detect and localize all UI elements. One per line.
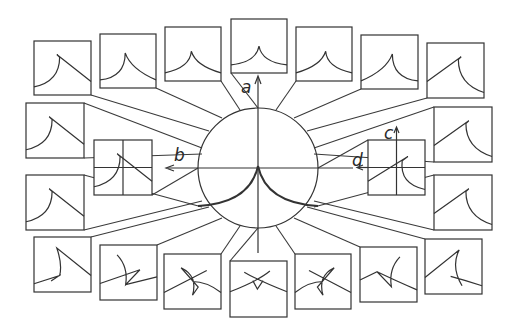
axis-label-d: d bbox=[352, 152, 363, 169]
box-top-5 bbox=[296, 27, 352, 81]
connector-top-3 bbox=[221, 81, 240, 110]
box-inner-right bbox=[368, 140, 425, 195]
box-frame bbox=[100, 245, 157, 300]
box-frame bbox=[425, 239, 482, 294]
connector-top-2 bbox=[156, 88, 222, 118]
connector-bottom-6 bbox=[294, 218, 360, 247]
box-top-1 bbox=[34, 41, 91, 95]
box-frame bbox=[434, 107, 492, 162]
axis-label-a: a bbox=[241, 79, 251, 96]
connector-top-6 bbox=[294, 89, 361, 118]
box-frame bbox=[34, 237, 91, 292]
box-bottom-2 bbox=[100, 245, 157, 300]
box-left-lower bbox=[26, 175, 84, 230]
axis-label-b: b bbox=[174, 147, 185, 164]
box-bottom-6 bbox=[360, 247, 417, 302]
connector-top-5 bbox=[276, 81, 296, 110]
box-top-7 bbox=[427, 43, 484, 98]
connector-bottom-5 bbox=[276, 226, 295, 254]
connector-bottom-3 bbox=[221, 226, 240, 254]
box-frame bbox=[434, 175, 492, 230]
box-bottom-7 bbox=[425, 239, 482, 294]
box-frame bbox=[361, 35, 418, 89]
box-inner-left bbox=[94, 140, 152, 195]
connector-bottom-4 bbox=[230, 228, 258, 261]
connector2-left-lower bbox=[84, 201, 202, 230]
connector-bottom-2 bbox=[157, 218, 222, 245]
box-frame bbox=[26, 175, 84, 230]
box-left-upper bbox=[26, 103, 84, 158]
connector-top-7 bbox=[307, 98, 427, 131]
box-top-3 bbox=[165, 27, 221, 81]
box-top-6 bbox=[361, 35, 418, 89]
box-bottom-5 bbox=[295, 254, 351, 309]
box-right-upper bbox=[434, 107, 492, 162]
box-right-lower bbox=[434, 175, 492, 230]
box-bottom-4 bbox=[230, 261, 287, 317]
connector-bottom-1 bbox=[91, 207, 209, 237]
box-frame bbox=[34, 41, 91, 95]
box-frame bbox=[100, 34, 156, 88]
box-frame bbox=[360, 247, 417, 302]
box-bottom-1 bbox=[34, 237, 91, 292]
box-frame bbox=[427, 43, 484, 98]
box-top-4 bbox=[231, 19, 287, 73]
box-top-2 bbox=[100, 34, 156, 88]
connector-inner-left bbox=[152, 168, 198, 195]
box-bottom-3 bbox=[164, 254, 221, 309]
box-frame bbox=[26, 103, 84, 158]
cusp-bifurcation-diagram bbox=[0, 0, 515, 327]
axis-label-c: c bbox=[384, 125, 393, 142]
